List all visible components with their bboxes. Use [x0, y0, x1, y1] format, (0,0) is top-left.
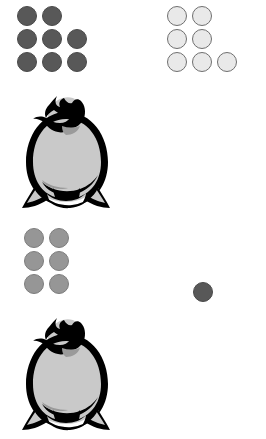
scene-canvas	[0, 0, 266, 439]
token-group-bottom-left	[24, 228, 99, 297]
token-circle[interactable]	[24, 274, 44, 294]
token-circle[interactable]	[67, 29, 87, 49]
token-circle[interactable]	[42, 6, 62, 26]
token-slot-empty	[74, 228, 94, 248]
token-slot-empty	[67, 6, 87, 26]
token-circle[interactable]	[49, 228, 69, 248]
token-circle[interactable]	[17, 29, 37, 49]
token-circle[interactable]	[192, 29, 212, 49]
token-circle[interactable]	[167, 52, 187, 72]
token-circle[interactable]	[17, 6, 37, 26]
token-circle[interactable]	[42, 52, 62, 72]
token-slot-empty	[217, 6, 237, 26]
token-slot-empty	[74, 251, 94, 271]
token-slot-empty	[74, 274, 94, 294]
token-circle[interactable]	[42, 29, 62, 49]
token-circle[interactable]	[217, 52, 237, 72]
token-group-top-left	[17, 6, 92, 75]
token-circle[interactable]	[17, 52, 37, 72]
token-circle[interactable]	[192, 52, 212, 72]
token-group-top-right	[167, 6, 242, 75]
token-circle[interactable]	[49, 251, 69, 271]
token-slot-empty	[218, 282, 238, 302]
token-slot-empty	[243, 282, 263, 302]
panel-bottom-left	[0, 220, 133, 439]
token-slot-empty	[217, 29, 237, 49]
token-circle[interactable]	[24, 251, 44, 271]
panel-top-right	[133, 0, 266, 219]
panel-bottom-right	[133, 220, 266, 439]
token-circle[interactable]	[167, 6, 187, 26]
token-circle[interactable]	[193, 282, 213, 302]
token-circle[interactable]	[167, 29, 187, 49]
token-circle[interactable]	[67, 52, 87, 72]
token-group-bottom-right	[193, 282, 266, 305]
token-circle[interactable]	[49, 274, 69, 294]
penguin-figure-bottom-left	[14, 312, 118, 436]
panel-top-left	[0, 0, 133, 219]
token-circle[interactable]	[24, 228, 44, 248]
token-circle[interactable]	[192, 6, 212, 26]
penguin-figure-top-left	[14, 90, 118, 214]
